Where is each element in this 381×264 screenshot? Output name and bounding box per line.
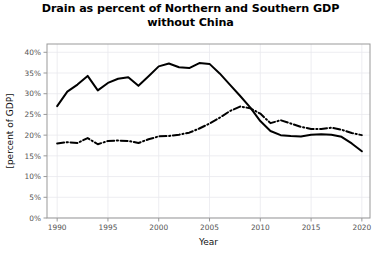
y-tick-label: 20%: [25, 131, 41, 140]
x-tick-label: 2015: [302, 223, 321, 232]
y-tick-label: 5%: [29, 193, 41, 202]
x-tick-label: 2005: [200, 223, 219, 232]
y-tick-labels: 0%5%10%15%20%25%30%35%40%: [25, 48, 41, 223]
x-tick-label: 1990: [48, 223, 67, 232]
y-tick-label: 30%: [25, 89, 41, 98]
chart-figure: Drain as percent of Northern and Souther…: [0, 0, 381, 264]
y-tick-label: 35%: [25, 69, 41, 78]
y-axis-title: [percent of GDP]: [5, 93, 15, 168]
x-tick-label: 2000: [149, 223, 168, 232]
x-tick-label: 2010: [251, 223, 270, 232]
y-tick-label: 40%: [25, 48, 41, 57]
plot-area: 1990199520002005201020152020 0%5%10%15%2…: [0, 0, 381, 264]
x-tick-label: 2020: [352, 223, 371, 232]
y-tick-label: 15%: [25, 152, 41, 161]
x-axis-title: Year: [198, 237, 218, 247]
gridlines: [47, 44, 370, 218]
x-tick-label: 1995: [99, 223, 118, 232]
y-tick-label: 25%: [25, 110, 41, 119]
x-tick-labels: 1990199520002005201020152020: [48, 223, 372, 232]
y-tick-label: 10%: [25, 172, 41, 181]
y-tick-label: 0%: [29, 214, 41, 223]
